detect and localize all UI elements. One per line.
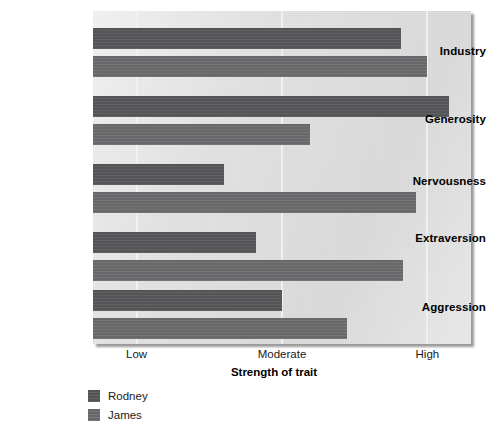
chart-legend: Rodney James (88, 386, 148, 424)
bar-james-industry (93, 56, 427, 77)
trait-strength-chart: Industry Generosity Nervousness Extraver… (0, 0, 486, 427)
category-label-industry: Industry (400, 45, 486, 57)
x-tick-high: High (416, 348, 440, 360)
bar-rodney-industry (93, 28, 401, 49)
category-label-extraversion: Extraversion (400, 232, 486, 244)
x-axis-title-text: Strength of trait (231, 366, 317, 378)
bar-james-aggression (93, 318, 347, 339)
legend-item-rodney: Rodney (88, 386, 148, 405)
bar-james-extraversion (93, 260, 403, 281)
x-tick-low: Low (126, 348, 147, 360)
category-label-aggression: Aggression (400, 301, 486, 313)
bar-rodney-extraversion (93, 232, 256, 253)
legend-label-james: James (108, 409, 142, 421)
category-label-nervousness: Nervousness (400, 175, 486, 187)
legend-label-rodney: Rodney (108, 390, 148, 402)
bar-rodney-nervousness (93, 164, 224, 185)
x-axis-title: Strength of trait (0, 366, 486, 378)
legend-swatch-james-icon (88, 409, 100, 421)
bar-james-nervousness (93, 192, 416, 213)
legend-swatch-rodney-icon (88, 390, 100, 402)
bar-james-generosity (93, 124, 310, 145)
category-label-generosity: Generosity (400, 113, 486, 125)
legend-item-james: James (88, 405, 148, 424)
x-tick-moderate: Moderate (258, 348, 307, 360)
bar-rodney-aggression (93, 290, 282, 311)
bar-rodney-generosity (93, 96, 449, 117)
